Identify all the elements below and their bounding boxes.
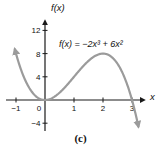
y-tick-label: −4 [31, 119, 41, 128]
x-axis-label: x [150, 92, 155, 102]
equation-label: f(x) = −2x³ + 6x² [59, 40, 123, 49]
function-curve [15, 49, 139, 126]
y-axis-label: f(x) [51, 3, 65, 13]
x-tick-label: −1 [11, 104, 21, 113]
figure-caption: (c) [0, 133, 161, 144]
cubic-function-graph: −10123−44812 f(x) x f(x) = −2x³ + 6x² (c… [0, 0, 161, 161]
x-tick-label: 1 [72, 104, 77, 113]
y-tick-label: 12 [32, 26, 41, 35]
y-tick-label: 8 [36, 50, 41, 59]
x-tick-label: 2 [101, 104, 106, 113]
y-tick-label: 4 [36, 73, 41, 82]
x-tick-label: 0 [37, 104, 42, 113]
